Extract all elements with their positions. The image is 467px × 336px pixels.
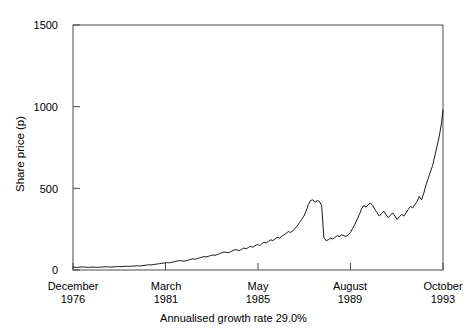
chart-caption: Annualised growth rate 29.0% — [0, 312, 467, 324]
y-tick-marks — [73, 25, 80, 270]
share-price-line — [73, 110, 443, 267]
plot-border — [73, 25, 443, 270]
plot-area — [0, 0, 467, 336]
chart-figure: Share price (p) 1500 1000 500 0 December… — [0, 0, 467, 336]
axes-frame — [73, 25, 443, 270]
